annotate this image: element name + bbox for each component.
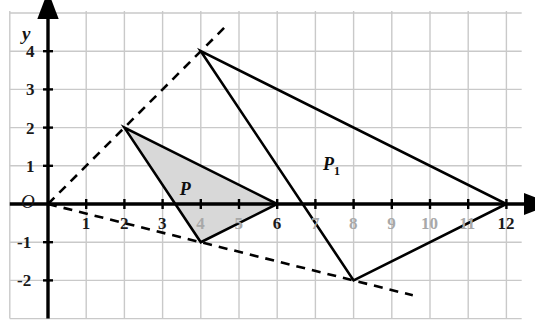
x-tick-label-8: 8 [349, 215, 358, 232]
x-tick-label-3: 3 [158, 215, 167, 232]
x-tick-label-2: 2 [120, 215, 129, 232]
x-tick-label-5: 5 [235, 215, 244, 232]
origin-label: O [21, 192, 35, 211]
y-tick-label-4: 4 [26, 43, 35, 60]
y-tick-label--2: -2 [17, 272, 31, 289]
y-tick-label-1: 1 [26, 158, 35, 175]
x-tick-label-9: 9 [387, 215, 396, 232]
x-tick-label-4: 4 [196, 215, 205, 232]
y-tick-label-2: 2 [26, 120, 35, 137]
x-tick-label-6: 6 [273, 215, 282, 232]
shape-label-P1: P1 [323, 155, 340, 177]
x-tick-label-11: 11 [459, 215, 475, 232]
x-tick-label-7: 7 [311, 215, 320, 232]
figure-background [0, 0, 535, 336]
shape-label-P: P [180, 180, 191, 198]
x-tick-label-10: 10 [421, 215, 438, 232]
x-tick-label-12: 12 [497, 215, 514, 232]
y-tick-label--1: -1 [17, 234, 31, 251]
y-tick-label-3: 3 [26, 81, 35, 98]
y-axis-label: y [22, 24, 30, 43]
x-tick-label-1: 1 [82, 215, 91, 232]
coordinate-diagram [0, 0, 535, 336]
